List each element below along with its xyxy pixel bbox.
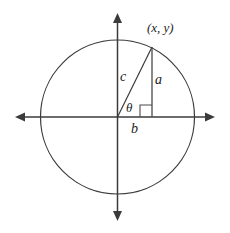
y-axis-bottom-arrowhead: [113, 211, 122, 221]
opposite-side-label: a: [155, 73, 162, 87]
x-axis-right-arrowhead: [205, 113, 215, 122]
adjacent-side-label: b: [131, 122, 138, 136]
theta-angle-label: θ: [126, 101, 132, 114]
hypotenuse-label: c: [120, 70, 126, 84]
trigonometry-diagram: (x, y) c a θ b: [0, 0, 230, 233]
x-axis-left-arrowhead: [15, 113, 25, 122]
point-coordinate-label: (x, y): [147, 21, 174, 34]
diagram-canvas: [0, 0, 230, 233]
right-angle-marker: [140, 105, 152, 117]
y-axis-top-arrowhead: [113, 13, 122, 23]
